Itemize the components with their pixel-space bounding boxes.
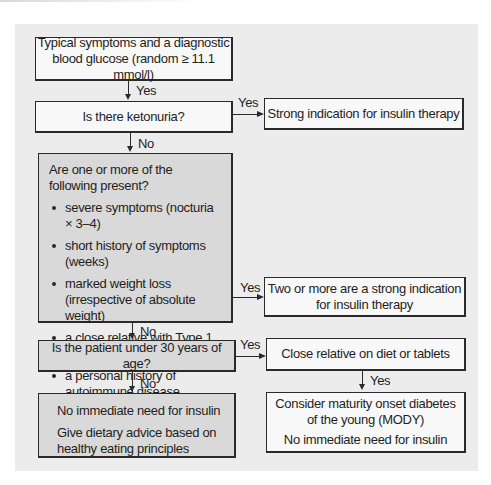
label-yes-age: Yes xyxy=(240,338,260,352)
criteria-item: severe symptoms (nocturia × 3–4) xyxy=(49,200,223,232)
age-question-box: Is the patient under 30 years of age? xyxy=(38,340,236,372)
mody-line2: of the young (MODY) xyxy=(267,412,464,428)
ketonuria-question-box: Is there ketonuria? xyxy=(35,101,233,133)
label-yes-relative: Yes xyxy=(370,374,390,388)
criteria-yes-outcome-line2: for insulin therapy xyxy=(265,297,464,313)
criteria-yes-outcome-line1: Two or more are a strong indication xyxy=(265,281,464,297)
start-text-line2: blood glucose (random ≥ 11.1 mmol/l) xyxy=(36,51,231,83)
arrow-right-icon xyxy=(257,111,264,117)
criteria-box: Are one or more of the following present… xyxy=(38,153,233,323)
arrow-down-icon xyxy=(127,146,133,152)
criteria-yes-outcome-box: Two or more are a strong indication for … xyxy=(264,277,466,317)
arrow-down-icon xyxy=(359,384,365,390)
close-relative-text: Close relative on diet or tablets xyxy=(267,346,464,362)
label-yes-criteria: Yes xyxy=(240,281,260,295)
ketonuria-yes-outcome: Strong indication for insulin therapy xyxy=(265,106,462,122)
no-insulin-line2: Give dietary advice based on healthy eat… xyxy=(57,425,226,457)
arrow-right-icon xyxy=(259,353,266,359)
label-yes-ketonuria: Yes xyxy=(238,96,258,110)
ketonuria-question: Is there ketonuria? xyxy=(36,109,231,125)
connector-age-no xyxy=(132,372,133,387)
connector-criteria-yes xyxy=(233,297,257,298)
label-no-criteria: No xyxy=(140,325,156,339)
ketonuria-yes-outcome-box: Strong indication for insulin therapy xyxy=(264,98,464,130)
no-insulin-box: No immediate need for insulin Give dieta… xyxy=(38,393,236,458)
connector-relative-mody xyxy=(362,371,363,385)
mody-line1: Consider maturity onset diabetes xyxy=(267,396,464,412)
connector-ketonuria-criteria xyxy=(130,133,131,147)
connector-ketonuria-yes xyxy=(233,114,257,115)
label-no-age: No xyxy=(140,377,156,391)
no-insulin-line1: No immediate need for insulin xyxy=(57,403,226,419)
close-relative-box: Close relative on diet or tablets xyxy=(266,338,466,371)
top-edge-strip xyxy=(0,0,200,2)
label-no-ketonuria: No xyxy=(138,137,154,151)
criteria-intro: Are one or more of the following present… xyxy=(49,162,223,194)
start-text-line1: Typical symptoms and a diagnostic xyxy=(36,35,231,51)
connector-start-ketonuria xyxy=(128,81,129,95)
start-box: Typical symptoms and a diagnostic blood … xyxy=(35,37,233,81)
criteria-item: short history of symptoms (weeks) xyxy=(49,238,223,270)
arrow-down-icon xyxy=(125,94,131,100)
criteria-item: marked weight loss (irrespective of abso… xyxy=(49,276,223,324)
arrow-down-icon xyxy=(129,386,135,392)
connector-age-yes xyxy=(236,356,259,357)
mody-line3: No immediate need for insulin xyxy=(267,432,464,448)
mody-box: Consider maturity onset diabetes of the … xyxy=(266,392,466,453)
arrow-down-icon xyxy=(129,333,135,339)
age-question: Is the patient under 30 years of age? xyxy=(39,340,234,372)
label-yes-start: Yes xyxy=(136,84,156,98)
